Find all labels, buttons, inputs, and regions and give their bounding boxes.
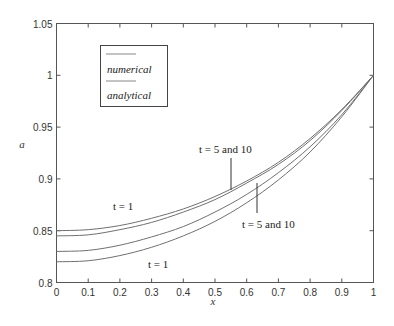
x-tick-label: 0.6 bbox=[240, 287, 254, 298]
line-chart: 00.10.20.30.40.50.60.70.80.91 0.80.850.9… bbox=[0, 0, 394, 326]
y-tick-label: 1 bbox=[47, 70, 53, 81]
legend-label-analytical: analytical bbox=[107, 89, 151, 101]
x-tick-label: 0.4 bbox=[176, 287, 190, 298]
y-tick-label: 0.9 bbox=[39, 174, 53, 185]
x-tick-label: 0.3 bbox=[145, 287, 159, 298]
x-tick-label: 1 bbox=[371, 287, 377, 298]
legend: numerical analytical bbox=[101, 46, 168, 107]
x-axis-label: x bbox=[210, 295, 216, 307]
annotation-t1-upper: t = 1 bbox=[113, 200, 133, 212]
y-tick-label: 0.8 bbox=[39, 278, 53, 289]
y-tick-label: 1.05 bbox=[33, 19, 53, 30]
annotation-t5-10-upper: t = 5 and 10 bbox=[199, 143, 252, 155]
x-tick-label: 0.2 bbox=[113, 287, 127, 298]
x-tick-label: 0.8 bbox=[303, 287, 317, 298]
x-tick-label: 0.7 bbox=[271, 287, 285, 298]
x-tick-label: 0.1 bbox=[81, 287, 95, 298]
annotation-t5-10-lower: t = 5 and 10 bbox=[242, 218, 295, 230]
y-tick-label: 0.95 bbox=[33, 122, 53, 133]
x-tick-label: 0.9 bbox=[335, 287, 349, 298]
legend-label-numerical: numerical bbox=[107, 63, 152, 75]
annotation-t1-lower: t = 1 bbox=[148, 258, 168, 270]
y-axis-label: a bbox=[19, 138, 25, 150]
x-tick-label: 0 bbox=[54, 287, 60, 298]
y-tick-label: 0.85 bbox=[33, 226, 53, 237]
